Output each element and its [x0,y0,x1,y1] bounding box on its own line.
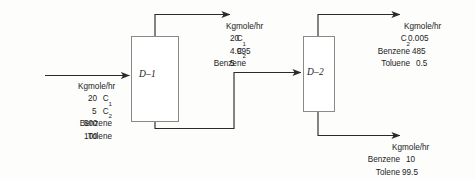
component-value: 99.5 [402,167,418,179]
stream-row: C2 5 [28,106,112,118]
component-value: 0.5 [416,58,427,70]
stream-row: Tolene 100 [28,131,112,143]
stream-row: Tolene 99.5 [330,167,434,179]
stream-row: Benzene 485 [358,46,434,58]
stream-row: C1 20 [28,93,112,105]
component-label: Benzene [378,46,410,58]
stream-row: C2 4.995 [186,46,246,58]
component-value: 20 [88,93,97,105]
feed-stream-annotation: Kgmole/hr C1 20 C2 5 Benzene 500 Tolene … [28,81,112,143]
component-value: 20 [230,33,239,45]
component-value: 0.005 [408,33,429,45]
process-flow-diagram: D–1 D–2 Kgmole/hr C1 20 C2 5 Benzene 500… [0,0,475,181]
component-label: Benzene [368,154,400,166]
d2-overhead-units: Kgmole/hr [404,21,434,33]
column-d2-label: D–2 [307,67,324,77]
component-label: C2 [103,106,112,118]
stream-row: C1 20 [186,33,246,45]
stream-row: Toluene 0.5 [358,58,434,70]
component-value: 5 [230,58,235,70]
feed-units: Kgmole/hr [78,81,112,93]
column-d1-label: D–1 [139,69,156,79]
component-value: 100 [84,131,98,143]
component-value: 10 [406,154,415,166]
stream-row: Benzene 500 [28,118,112,130]
stream-row: Benzene 5 [186,58,246,70]
d1-overhead-stream-annotation: Kgmole/hr C1 20 C2 4.995 Benzene 5 [186,21,246,71]
component-label: Tolene [376,167,400,179]
component-value: 4.995 [230,46,251,58]
d2-bottoms-units: Kgmole/hr [392,142,434,154]
stream-row: Benzene 10 [330,154,434,166]
stream-row: C2 0.005 [358,33,434,45]
d2-bottoms-line [318,112,400,136]
component-label: C1 [103,93,112,105]
d2-overhead-stream-annotation: Kgmole/hr C2 0.005 Benzene 485 Toluene 0… [358,21,434,71]
component-label: Toluene [381,58,410,70]
d2-bottoms-stream-annotation: Kgmole/hr Benzene 10 Tolene 99.5 [330,142,434,179]
component-value: 485 [412,46,426,58]
column-d1[interactable] [131,36,179,122]
d1-overhead-units: Kgmole/hr [226,21,246,33]
component-value: 5 [92,106,97,118]
component-value: 500 [84,118,98,130]
